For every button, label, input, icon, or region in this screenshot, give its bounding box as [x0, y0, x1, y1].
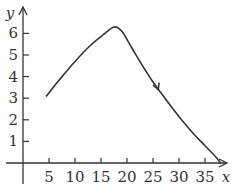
y-tick-label: 3	[8, 89, 18, 107]
chart: 5101520253035123456 x y	[0, 0, 234, 188]
x-tick-label: 20	[117, 168, 136, 186]
axes	[6, 7, 227, 184]
y-tick-label: 1	[8, 132, 18, 150]
series-line-curve	[46, 27, 220, 163]
series	[46, 27, 220, 163]
x-tick-label: 10	[65, 168, 84, 186]
x-tick-label: 15	[91, 168, 110, 186]
x-tick-label: 30	[169, 168, 188, 186]
ticks: 5101520253035123456	[8, 24, 214, 186]
y-tick-label: 5	[8, 46, 18, 64]
x-tick-label: 25	[143, 168, 162, 186]
y-tick-label: 2	[8, 111, 18, 129]
x-axis-label: x	[222, 168, 231, 186]
x-tick-label: 5	[44, 168, 54, 186]
y-tick-label: 6	[8, 24, 18, 42]
y-tick-label: 4	[8, 68, 18, 86]
y-axis-label: y	[5, 4, 15, 22]
x-tick-label: 35	[195, 168, 214, 186]
